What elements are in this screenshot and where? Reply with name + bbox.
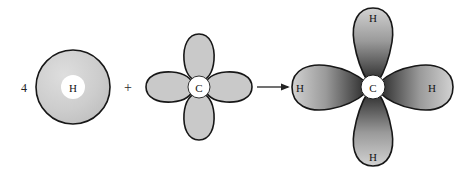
product-hydrogen-label-up: H bbox=[369, 12, 377, 24]
product-methane-group: H H H H C bbox=[292, 8, 453, 166]
carbon-sp3-lobe-left bbox=[146, 72, 194, 102]
carbon-atom-label: C bbox=[195, 82, 203, 94]
carbon-sp3-lobe-down bbox=[184, 92, 214, 140]
reactant-hydrogen-group: 4 H bbox=[21, 50, 110, 124]
product-hydrogen-label-right: H bbox=[428, 82, 436, 94]
hydrogen-coefficient: 4 bbox=[21, 81, 27, 95]
hydrogen-atom-label: H bbox=[69, 82, 77, 94]
product-carbon-label: C bbox=[369, 82, 377, 94]
reactant-carbon-group: C bbox=[146, 34, 252, 140]
carbon-sp3-lobe-up bbox=[184, 34, 214, 82]
orbital-overlap-diagram: 4 H + C H H bbox=[0, 0, 463, 169]
carbon-sp3-lobe-right bbox=[204, 72, 252, 102]
diagram-canvas: 4 H + C H H bbox=[0, 0, 463, 169]
product-hydrogen-label-left: H bbox=[296, 82, 304, 94]
product-bond-lobe-right bbox=[379, 65, 453, 110]
product-hydrogen-label-down: H bbox=[369, 151, 377, 163]
plus-operator: + bbox=[124, 80, 132, 95]
